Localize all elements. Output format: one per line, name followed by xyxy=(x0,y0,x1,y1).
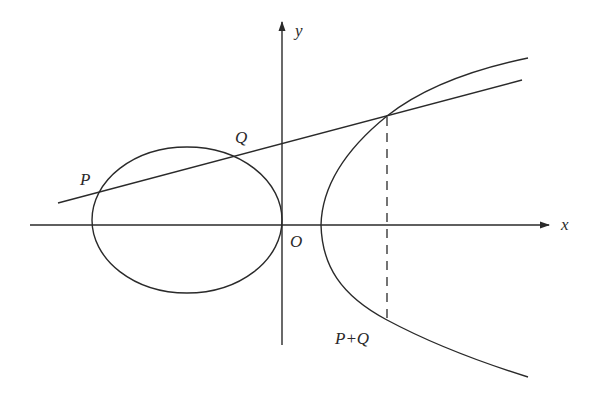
x-axis-label: x xyxy=(560,215,569,234)
point-p-label: P xyxy=(79,170,90,189)
y-axis-label: y xyxy=(293,21,303,40)
point-q-label: Q xyxy=(235,128,247,147)
point-sum-label: P+Q xyxy=(334,329,369,348)
origin-label: O xyxy=(290,232,302,251)
secant-line xyxy=(58,80,522,203)
elliptic-curve-diagram: y x O P Q P+Q xyxy=(0,0,589,398)
